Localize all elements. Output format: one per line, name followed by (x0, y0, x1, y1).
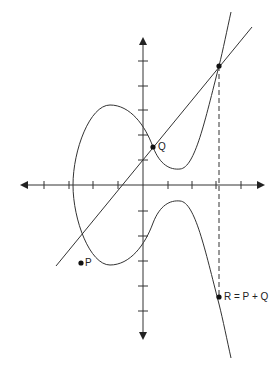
label-p: P (85, 258, 92, 268)
label-q: Q (158, 142, 166, 152)
point-p (78, 260, 83, 265)
point-r (216, 294, 221, 299)
arrow-right-icon (257, 181, 265, 189)
arrow-up-icon (139, 37, 147, 45)
elliptic-curve-diagram (0, 0, 277, 367)
elliptic-curve-lower (73, 185, 231, 358)
arrow-left-icon (20, 181, 28, 189)
label-r: R = P + Q (224, 292, 268, 302)
point-neg-r (216, 63, 221, 68)
point-q (150, 144, 155, 149)
elliptic-curve (73, 12, 231, 185)
arrow-down-icon (139, 332, 147, 340)
